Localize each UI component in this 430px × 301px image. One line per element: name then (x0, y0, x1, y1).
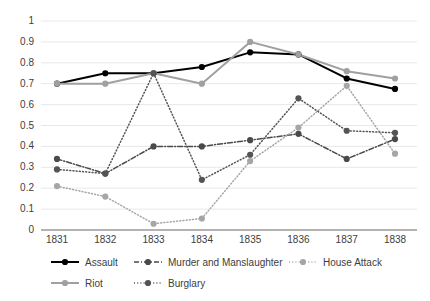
legend-item-assault[interactable]: Assault (50, 252, 118, 272)
data-point (150, 70, 156, 76)
data-point (102, 170, 108, 176)
series-line-house-attack (57, 86, 395, 224)
y-tick-label: 0.6 (8, 99, 34, 110)
legend-label: Riot (80, 278, 103, 289)
data-point (247, 49, 253, 55)
data-point (54, 156, 60, 162)
legend-item-house-attack[interactable]: House Attack (288, 252, 382, 272)
gridlines (41, 21, 417, 209)
legend-item-burglary[interactable]: Burglary (133, 273, 205, 293)
legend-swatch-icon (133, 255, 163, 269)
y-tick-label: 0.1 (8, 203, 34, 214)
legend-item-murder-and-manslaughter[interactable]: Murder and Manslaughter (133, 252, 283, 272)
data-point (295, 95, 301, 101)
data-point (247, 158, 253, 164)
data-point (247, 137, 253, 143)
data-point (150, 143, 156, 149)
legend-label: Murder and Manslaughter (163, 257, 283, 268)
data-point (54, 166, 60, 172)
x-tick-label: 1833 (134, 234, 174, 245)
legend-swatch-icon (288, 255, 318, 269)
data-point (392, 151, 398, 157)
data-point (247, 39, 253, 45)
legend-label: Assault (80, 257, 118, 268)
data-point (392, 130, 398, 136)
x-tick-label: 1835 (230, 234, 270, 245)
data-point (102, 193, 108, 199)
data-point (344, 156, 350, 162)
data-point (247, 152, 253, 158)
data-point (199, 81, 205, 87)
y-tick-label: 0.8 (8, 57, 34, 68)
y-tick-label: 1 (8, 15, 34, 26)
x-tick-label: 1832 (85, 234, 125, 245)
x-tick-label: 1837 (327, 234, 367, 245)
data-point (344, 75, 350, 81)
x-tick-label: 1836 (278, 234, 318, 245)
chart-legend: AssaultMurder and ManslaughterHouse Atta… (0, 252, 430, 300)
data-point (392, 75, 398, 81)
data-point (102, 70, 108, 76)
data-point (199, 215, 205, 221)
data-point (102, 81, 108, 87)
y-tick-label: 0.4 (8, 140, 34, 151)
x-tick-label: 1834 (182, 234, 222, 245)
data-point (344, 128, 350, 134)
x-tick-label: 1838 (375, 234, 415, 245)
data-point (344, 83, 350, 89)
data-point (392, 86, 398, 92)
legend-swatch-icon (133, 276, 163, 290)
legend-swatch-icon (50, 255, 80, 269)
y-tick-label: 0.2 (8, 182, 34, 193)
data-point (150, 221, 156, 227)
data-point (344, 68, 350, 74)
legend-row-1: AssaultMurder and ManslaughterHouse Atta… (0, 252, 430, 272)
line-chart: 00.10.20.30.40.50.60.70.80.91 1831183218… (0, 0, 430, 301)
series-markers (54, 39, 398, 227)
y-tick-label: 0.7 (8, 78, 34, 89)
y-tick-label: 0 (8, 224, 34, 235)
y-tick-label: 0.9 (8, 36, 34, 47)
legend-label: House Attack (318, 257, 382, 268)
legend-item-riot[interactable]: Riot (50, 273, 103, 293)
y-tick-label: 0.5 (8, 120, 34, 131)
data-point (295, 51, 301, 57)
data-point (295, 124, 301, 130)
data-point (392, 136, 398, 142)
series-line-burglary (57, 73, 395, 180)
x-tick-label: 1831 (37, 234, 77, 245)
data-point (54, 183, 60, 189)
data-point (54, 81, 60, 87)
y-tick-label: 0.3 (8, 161, 34, 172)
legend-label: Burglary (163, 278, 205, 289)
data-point (199, 177, 205, 183)
data-point (295, 131, 301, 137)
data-point (199, 64, 205, 70)
data-point (199, 143, 205, 149)
legend-swatch-icon (50, 276, 80, 290)
legend-row-2: RiotBurglary (0, 273, 430, 293)
